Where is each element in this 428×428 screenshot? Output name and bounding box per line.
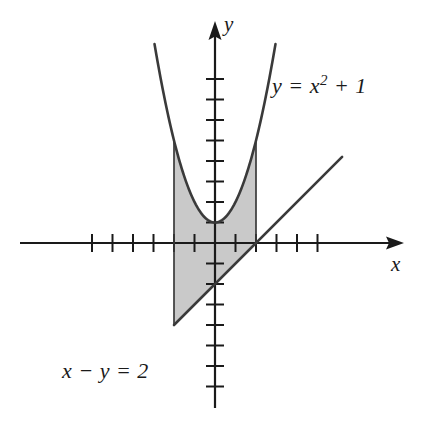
curve-label-plus: + xyxy=(334,73,349,98)
line-label-equals: = xyxy=(116,358,131,383)
curve-label-base: x xyxy=(310,73,320,98)
y-axis-label: y xyxy=(224,12,233,37)
curve-label-constant: 1 xyxy=(355,73,367,98)
curve-label-lhs: y xyxy=(272,73,282,98)
curve-label-exponent: 2 xyxy=(320,72,328,88)
line-label-constant: 2 xyxy=(137,358,149,383)
line-equation-label: x − y = 2 xyxy=(62,358,149,384)
line-label-x: x xyxy=(62,358,72,383)
curve-label-equals: = xyxy=(288,73,303,98)
math-graph-figure: y = x2 + 1 x − y = 2 y x xyxy=(0,0,428,428)
x-axis-label: x xyxy=(391,252,400,277)
line-label-minus: − xyxy=(78,358,93,383)
line-label-y: y xyxy=(100,358,110,383)
curve-equation-label: y = x2 + 1 xyxy=(272,72,367,99)
